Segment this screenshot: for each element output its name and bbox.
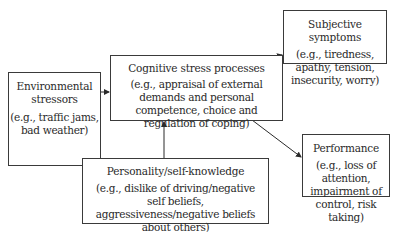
node-performance: Performance (e.g., loss of attention, im…: [302, 134, 390, 197]
node-description: (e.g., dislike of driving/negative self …: [87, 182, 264, 232]
node-title: Cognitive stress processes: [113, 62, 280, 75]
node-description: (e.g., appraisal of external demands and…: [113, 78, 280, 130]
node-cognitive-stress-processes: Cognitive stress processes (e.g., apprai…: [110, 55, 283, 121]
node-title: Performance: [304, 142, 388, 155]
node-title: Environmental stressors: [9, 80, 100, 106]
node-description: (e.g., tiredness, apathy, tension, insec…: [285, 48, 385, 87]
node-personality-self-knowledge: Personality/self-knowledge (e.g., dislik…: [82, 158, 269, 224]
node-title: Subjective symptoms: [285, 18, 385, 44]
node-environmental-stressors: Environmental stressors (e.g., traffic j…: [8, 72, 101, 166]
node-description: (e.g., loss of attention, impairment of …: [304, 159, 388, 224]
node-description: (e.g., traffic jams, bad weather): [9, 111, 100, 137]
node-title: Personality/self-knowledge: [87, 165, 264, 178]
node-subjective-symptoms: Subjective symptoms (e.g., tiredness, ap…: [283, 10, 387, 64]
